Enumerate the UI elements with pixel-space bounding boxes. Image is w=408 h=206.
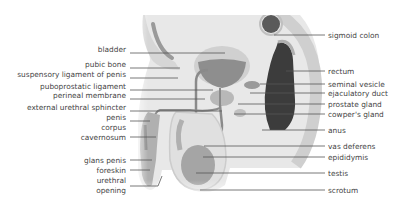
label-scrotum: scrotum [328, 186, 358, 195]
label-ejaculatory-duct: ejaculatory duct [328, 89, 388, 98]
label-prostate-gland: prostate gland [328, 100, 382, 109]
label-bladder: bladder [98, 45, 126, 54]
label-puboprostatic-ligament: puboprostatic ligament [40, 82, 126, 91]
label-urethral: urethral [97, 176, 126, 185]
testis [181, 145, 215, 185]
label-cowpers-gland: cowper's gland [328, 110, 384, 119]
label-cavernosum: cavernosum [81, 133, 126, 142]
label-epididymis: epididymis [328, 153, 368, 162]
label-pubic-bone: pubic bone [85, 60, 126, 69]
label-foreskin: foreskin [97, 166, 126, 175]
label-anus: anus [328, 126, 346, 135]
label-testis: testis [328, 169, 348, 178]
label-suspensory-ligament: suspensory ligament of penis [17, 70, 126, 79]
label-opening: opening [96, 186, 126, 195]
label-glans-penis: glans penis [84, 156, 126, 165]
sigmoid-colon [262, 15, 280, 33]
label-external-urethral-sphincter: external urethral sphincter [27, 103, 126, 112]
label-sigmoid-colon: sigmoid colon [328, 31, 379, 40]
label-penis: penis [106, 113, 126, 122]
label-corpus: corpus [101, 123, 126, 132]
label-perineal-membrane: perineal membrane [53, 91, 126, 100]
label-rectum: rectum [328, 67, 354, 76]
label-vas-deferens: vas deferens [328, 142, 375, 151]
prostate [210, 90, 234, 106]
label-seminal-vesicle: seminal vesicle [328, 80, 385, 89]
